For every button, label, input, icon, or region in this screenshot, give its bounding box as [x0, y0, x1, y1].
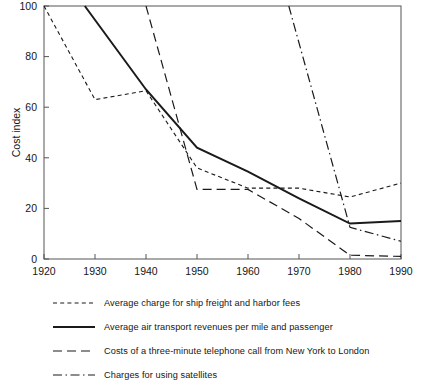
legend-swatch-dashdot-icon	[52, 370, 96, 380]
legend-item-satellites: Charges for using satellites	[52, 365, 217, 385]
series-line-3	[289, 6, 401, 241]
y-tick-label: 0	[31, 253, 37, 265]
x-tick-label: 1980	[338, 265, 362, 277]
y-tick-label: 100	[19, 0, 37, 12]
legend-label-telephone: Costs of a three-minute telephone call f…	[104, 346, 369, 356]
y-tick-label: 60	[25, 101, 37, 113]
legend-label-air: Average air transport revenues per mile …	[104, 322, 333, 332]
x-tick-label: 1950	[185, 265, 209, 277]
x-axis-ticks	[44, 254, 401, 259]
x-tick-label: 1930	[83, 265, 107, 277]
series-line-2	[146, 6, 401, 256]
legend-item-ship: Average charge for ship freight and harb…	[52, 293, 300, 313]
series-line-0	[44, 6, 401, 197]
x-tick-label: 1960	[236, 265, 260, 277]
x-tick-label: 1920	[32, 265, 56, 277]
y-axis-title: Cost index	[10, 107, 22, 157]
y-axis-ticks	[44, 6, 49, 259]
x-tick-label: 1940	[134, 265, 158, 277]
chart-legend: Average charge for ship freight and harb…	[0, 285, 430, 387]
legend-swatch-dotted-icon	[52, 298, 96, 308]
x-axis-tick-labels: 19201930194019501960197019801990	[32, 265, 413, 277]
y-axis-tick-labels: 020406080100	[19, 0, 37, 265]
series-line-1	[85, 6, 401, 224]
x-tick-label: 1970	[287, 265, 311, 277]
legend-label-ship: Average charge for ship freight and harb…	[104, 298, 300, 308]
legend-label-satellites: Charges for using satellites	[104, 370, 217, 380]
y-tick-label: 80	[25, 50, 37, 62]
legend-item-telephone: Costs of a three-minute telephone call f…	[52, 341, 369, 361]
legend-item-air: Average air transport revenues per mile …	[52, 317, 333, 337]
legend-swatch-solid-icon	[52, 322, 96, 332]
y-tick-label: 20	[25, 202, 37, 214]
series-lines	[44, 6, 401, 256]
y-tick-label: 40	[25, 152, 37, 164]
x-tick-label: 1990	[389, 265, 413, 277]
chart-svg: 020406080100 192019301940195019601970198…	[0, 0, 430, 285]
plot-frame	[44, 6, 401, 259]
line-chart: 020406080100 192019301940195019601970198…	[0, 0, 430, 285]
legend-swatch-dashed-icon	[52, 346, 96, 356]
chart-page: 020406080100 192019301940195019601970198…	[0, 0, 430, 387]
